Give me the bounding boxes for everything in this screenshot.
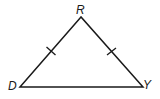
vertex-label-d: D	[8, 79, 17, 93]
vertex-label-r: R	[76, 3, 85, 17]
vertex-label-y: Y	[143, 78, 152, 92]
triangle-dry	[20, 17, 143, 87]
triangle-diagram: R D Y	[0, 0, 160, 99]
